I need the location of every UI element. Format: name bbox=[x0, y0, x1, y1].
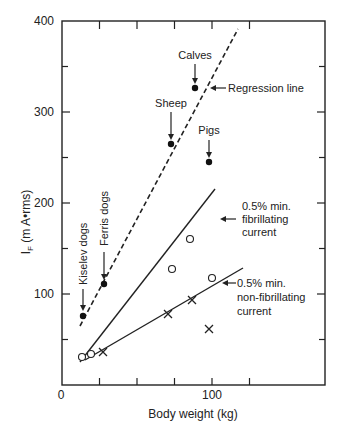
label-fib-line2: fibrillating bbox=[242, 213, 288, 225]
chart: 400 300 200 100 0 100 Body weight (kg) I… bbox=[0, 0, 344, 430]
y-tick-100: 100 bbox=[34, 287, 54, 301]
point-kiselev-dogs bbox=[80, 313, 86, 319]
svg-text:IF (m A•rms): IF (m A•rms) bbox=[19, 190, 35, 254]
label-fib-line1: 0.5% min. bbox=[242, 200, 291, 212]
cross-point bbox=[205, 325, 213, 333]
non-fibrillating-line bbox=[85, 268, 243, 360]
open-point bbox=[187, 236, 194, 243]
point-sheep bbox=[168, 141, 174, 147]
open-point bbox=[169, 266, 176, 273]
x-tick-100: 100 bbox=[202, 388, 222, 402]
label-nonfib-line2: non-fibrillating bbox=[237, 291, 305, 303]
label-regression-line: Regression line bbox=[228, 82, 304, 94]
label-sheep: Sheep bbox=[155, 97, 187, 109]
label-nonfib-line1: 0.5% min. bbox=[237, 277, 286, 289]
x-axis-label: Body weight (kg) bbox=[148, 407, 237, 421]
open-circle-points bbox=[79, 236, 216, 361]
cross-points bbox=[99, 296, 213, 356]
y-tick-300: 300 bbox=[34, 105, 54, 119]
x-tick-0: 0 bbox=[58, 388, 65, 402]
label-kiselev-dogs: Kiselev dogs bbox=[77, 222, 89, 285]
label-fib-line3: current bbox=[242, 226, 276, 238]
label-pigs: Pigs bbox=[198, 124, 220, 136]
label-calves: Calves bbox=[178, 49, 212, 61]
point-ferris-dogs bbox=[101, 281, 107, 287]
label-nonfib-line3: current bbox=[237, 305, 271, 317]
point-pigs bbox=[206, 159, 212, 165]
y-axis-label-unit: (m A•rms) bbox=[19, 190, 33, 246]
y-axis-label: IF (m A•rms) bbox=[19, 190, 35, 254]
open-point bbox=[88, 351, 95, 358]
y-tick-200: 200 bbox=[34, 196, 54, 210]
y-tick-400: 400 bbox=[34, 14, 54, 28]
label-ferris-dogs: Ferris dogs bbox=[98, 190, 110, 246]
point-calves bbox=[192, 85, 198, 91]
open-point bbox=[209, 275, 216, 282]
x-ticks bbox=[100, 21, 250, 385]
open-point bbox=[79, 354, 86, 361]
